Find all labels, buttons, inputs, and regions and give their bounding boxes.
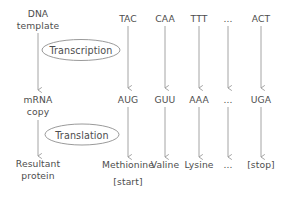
- row-label-dna-template: DNA template: [0, 8, 76, 31]
- amino-acid-2: Valine: [151, 159, 179, 171]
- mrna-codon-4: ...: [223, 94, 232, 106]
- dna-codon-4: ...: [223, 13, 232, 25]
- row-label-protein-line2: protein: [0, 170, 80, 182]
- amino-acid-5: [stop]: [247, 159, 275, 171]
- row-label-mrna-line2: copy: [0, 106, 76, 118]
- dna-codon-1: TAC: [119, 13, 137, 25]
- process-label-transcription: Transcription: [49, 45, 112, 56]
- mrna-codon-2: GUU: [155, 94, 176, 106]
- amino-acid-1-note: [start]: [113, 176, 142, 188]
- amino-acid-4: ...: [223, 159, 232, 171]
- dna-codon-3: TTT: [191, 13, 208, 25]
- amino-acid-1: Methionine: [102, 159, 154, 171]
- transcription-translation-diagram: DNA template mRNA copy Resultant protein…: [0, 0, 281, 200]
- mrna-codon-1: AUG: [118, 94, 138, 106]
- mrna-codon-5: UGA: [251, 94, 271, 106]
- row-label-resultant-protein: Resultant protein: [0, 158, 80, 181]
- row-label-dna-line1: DNA: [0, 8, 76, 20]
- dna-codon-2: CAA: [155, 13, 175, 25]
- row-label-mrna-copy: mRNA copy: [0, 94, 76, 117]
- process-label-translation: Translation: [55, 129, 108, 140]
- amino-acid-3: Lysine: [184, 159, 213, 171]
- mrna-codon-3: AAA: [189, 94, 209, 106]
- row-label-protein-line1: Resultant: [0, 158, 80, 170]
- row-label-dna-line2: template: [0, 20, 76, 32]
- row-label-mrna-line1: mRNA: [0, 94, 76, 106]
- dna-codon-5: ACT: [252, 13, 270, 25]
